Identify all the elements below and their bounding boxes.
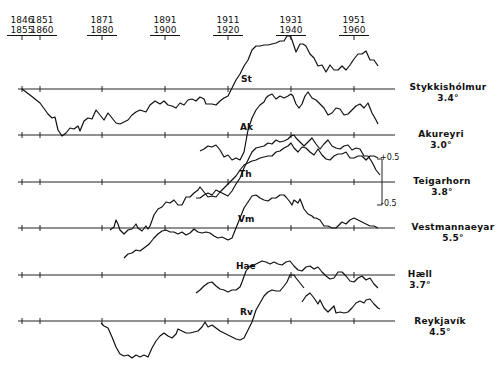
scale-minus-label: -0.5 xyxy=(381,199,397,208)
station-label-reykjavik: Reykjavík 4.5° xyxy=(410,316,470,338)
series-abbr-st: St xyxy=(241,74,252,84)
tick-label-1951-1960: 19511960 xyxy=(339,15,369,36)
station-name: Teigarhorn xyxy=(413,176,471,186)
station-label-teigarhorn: Teigarhorn 3.8° xyxy=(402,176,482,198)
station-mean-temp: 4.5° xyxy=(410,327,470,338)
series-abbr-rv: Rv xyxy=(240,307,253,317)
station-label-akureyri: Akureyri 3.0° xyxy=(406,129,476,151)
series-abbr-vm: Vm xyxy=(238,214,254,224)
station-name: Hæll xyxy=(408,269,432,279)
station-name: Vestmannaeyar xyxy=(412,222,495,232)
series-abbr-ak: Ak xyxy=(240,122,253,132)
station-mean-temp: 3.0° xyxy=(406,140,476,151)
series-lines xyxy=(22,36,380,358)
station-label-vestmannaeyar: Vestmannaeyar 5.5° xyxy=(408,222,498,244)
station-mean-temp: 5.5° xyxy=(408,233,498,244)
station-mean-temp: 3.8° xyxy=(402,187,482,198)
series-abbr-th: Th xyxy=(239,169,252,179)
tick-label-1911-1920: 19111920 xyxy=(213,15,243,36)
station-mean-temp: 3.7° xyxy=(405,280,435,291)
series-abbr-hae: Hae xyxy=(236,261,256,271)
series-line xyxy=(124,195,378,258)
baselines xyxy=(18,86,395,324)
station-name: Reykjavík xyxy=(414,316,466,326)
tick-label-1851-1860: 18511860 xyxy=(27,15,57,36)
station-label-stykkisholmur: Stykkishólmur 3.4° xyxy=(398,82,498,104)
station-label-haell: Hæll 3.7° xyxy=(405,269,435,291)
station-mean-temp: 3.4° xyxy=(398,93,498,104)
scale-plus-label: +0.5 xyxy=(380,153,399,162)
series-line xyxy=(22,36,378,136)
station-name: Akureyri xyxy=(418,129,464,139)
station-name: Stykkishólmur xyxy=(410,82,487,92)
tick-label-1871-1880: 18711880 xyxy=(87,15,117,36)
series-line xyxy=(196,261,378,293)
tick-label-1891-1900: 18911900 xyxy=(150,15,180,36)
tick-label-1931-1940: 19311940 xyxy=(276,15,306,36)
series-line xyxy=(302,293,380,313)
